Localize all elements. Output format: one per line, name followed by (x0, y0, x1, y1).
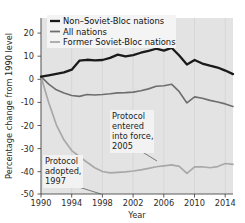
annotation-line: Protocol (112, 111, 145, 121)
chart-figure: 20 10 0 -10 -20 -30 -40 -50 1990 1994 19… (0, 0, 245, 223)
x-tick-label: 1990 (31, 198, 52, 208)
y-tick-label: -10 (21, 97, 34, 107)
annotation-line: 1997 (45, 176, 66, 186)
y-tick-label: -20 (21, 121, 34, 131)
y-tick-labels: 20 10 0 -10 -20 -30 -40 -50 (21, 28, 34, 199)
annotation-line: 2005 (112, 141, 133, 151)
x-tick-labels: 1990 1994 1998 2002 2006 2010 2014 (31, 198, 236, 208)
x-tick-label: 1998 (92, 198, 113, 208)
annotation-line: into force, (112, 131, 154, 141)
x-tick-label: 2006 (153, 198, 174, 208)
legend-label-former-soviet-bloc: Former Soviet-Bloc nations (63, 37, 176, 47)
y-tick-label: -40 (21, 167, 34, 177)
annotation-line: Protocol (45, 156, 78, 166)
y-tick-label: 0 (29, 74, 34, 84)
y-tick-label: -30 (21, 144, 34, 154)
x-axis (41, 194, 233, 198)
legend-label-non-soviet-bloc: Non–Soviet-Bloc nations (63, 16, 164, 26)
emissions-line-chart: 20 10 0 -10 -20 -30 -40 -50 1990 1994 19… (0, 0, 245, 223)
x-tick-label: 1994 (61, 198, 82, 208)
x-axis-title: Year (127, 210, 146, 220)
y-tick-label: 20 (24, 28, 34, 38)
annotation-line: entered (112, 121, 144, 131)
y-axis (38, 18, 42, 194)
x-tick-label: 2010 (184, 198, 205, 208)
y-axis-title: Percentage change from 1990 level (4, 33, 14, 179)
legend-label-all-nations: All nations (63, 27, 107, 37)
y-tick-label: 10 (24, 51, 34, 61)
annotation-line: adopted, (45, 166, 81, 176)
x-tick-label: 2002 (123, 198, 144, 208)
x-tick-label: 2014 (215, 198, 236, 208)
chart-legend: Non–Soviet-Bloc nations All nations Form… (47, 15, 176, 48)
